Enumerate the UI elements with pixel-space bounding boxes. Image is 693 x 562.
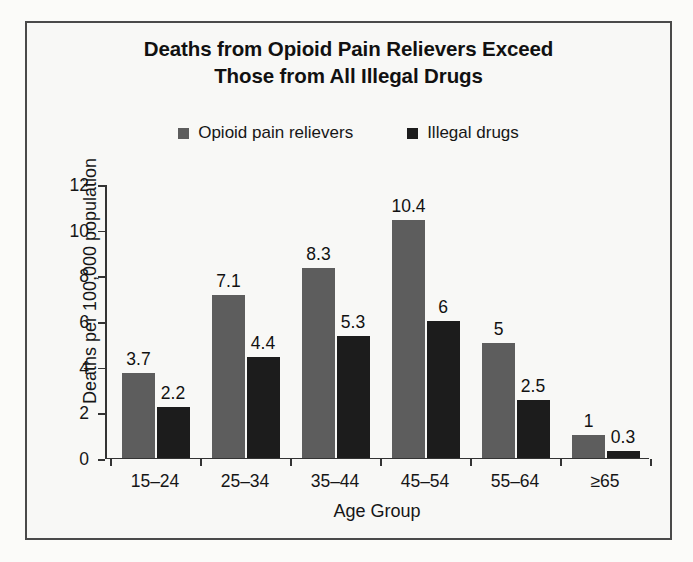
bar-illegal[interactable]: 0.3 xyxy=(607,451,640,458)
y-axis-tick-label: 0 xyxy=(79,449,89,470)
bar-opioid[interactable]: 8.3 xyxy=(302,268,335,458)
bar-opioid[interactable]: 1 xyxy=(572,435,605,458)
x-axis-category-label: 15–24 xyxy=(131,471,180,492)
bar-opioid[interactable]: 3.7 xyxy=(122,373,155,457)
bar-value-label: 1 xyxy=(584,411,594,432)
bar-value-label: 4.4 xyxy=(251,333,275,354)
bar-value-label: 2.5 xyxy=(521,376,545,397)
bar-opioid[interactable]: 5 xyxy=(482,343,515,457)
bar-value-label: 7.1 xyxy=(216,271,240,292)
legend-item-label: Illegal drugs xyxy=(427,123,519,143)
x-axis-title: Age Group xyxy=(105,501,649,522)
x-axis-tick xyxy=(470,459,472,466)
legend-item[interactable]: Illegal drugs xyxy=(407,123,519,143)
bar-value-label: 10.4 xyxy=(391,196,425,217)
bar-value-label: 5.3 xyxy=(341,312,365,333)
x-axis-tick xyxy=(380,459,382,466)
bar-value-label: 5 xyxy=(494,319,504,340)
x-axis-category-label: 25–34 xyxy=(221,471,270,492)
legend-swatch-icon xyxy=(407,128,418,139)
legend-item-label: Opioid pain relievers xyxy=(198,123,353,143)
legend-item[interactable]: Opioid pain relievers xyxy=(178,123,353,143)
bar-illegal[interactable]: 5.3 xyxy=(337,336,370,457)
bar-illegal[interactable]: 4.4 xyxy=(247,357,280,457)
bar-illegal[interactable]: 2.5 xyxy=(517,400,550,457)
x-axis-tick xyxy=(560,459,562,466)
bar-value-label: 8.3 xyxy=(306,244,330,265)
chart-figure-frame: Deaths from Opioid Pain Relievers Exceed… xyxy=(25,21,672,540)
bar-value-label: 0.3 xyxy=(611,427,635,448)
y-axis-title: Deaths per 100,000 population xyxy=(80,136,101,426)
bar-value-label: 2.2 xyxy=(161,383,185,404)
bar-opioid[interactable]: 10.4 xyxy=(392,220,425,457)
x-axis-tick xyxy=(110,459,112,466)
bar-value-label: 3.7 xyxy=(126,349,150,370)
x-axis-category-label: 35–44 xyxy=(311,471,360,492)
chart-title-line-2: Those from All Illegal Drugs xyxy=(27,62,670,89)
bar-illegal[interactable]: 2.2 xyxy=(157,407,190,457)
chart-title-line-1: Deaths from Opioid Pain Relievers Exceed xyxy=(27,35,670,62)
legend-swatch-icon xyxy=(178,128,189,139)
bar-opioid[interactable]: 7.1 xyxy=(212,295,245,457)
x-axis-tick xyxy=(650,459,652,466)
x-axis-tick xyxy=(290,459,292,466)
chart-legend: Opioid pain relieversIllegal drugs xyxy=(27,123,670,143)
bar-value-label: 6 xyxy=(438,297,448,318)
x-axis-category-label: 55–64 xyxy=(491,471,540,492)
chart-title: Deaths from Opioid Pain Relievers Exceed… xyxy=(27,35,670,89)
x-axis-line xyxy=(105,458,649,460)
plot-area: 0246810123.72.215–247.14.425–348.35.335–… xyxy=(105,185,649,459)
y-axis-line xyxy=(105,185,107,459)
x-axis-category-label: 45–54 xyxy=(401,471,450,492)
x-axis-tick xyxy=(200,459,202,466)
y-axis-tick xyxy=(98,459,105,461)
x-axis-category-label: ≥65 xyxy=(590,471,619,492)
bar-illegal[interactable]: 6 xyxy=(427,321,460,458)
